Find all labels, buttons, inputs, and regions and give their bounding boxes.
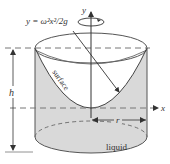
y-axis-label: y xyxy=(81,5,86,15)
radius-label: r xyxy=(116,115,120,125)
x-axis-label: x xyxy=(160,103,165,113)
equation-label: y = ω²x²/2g xyxy=(25,16,68,26)
rotating-cylinder-diagram: x y y = ω²x²/2g surface h xyxy=(0,0,170,164)
liquid-label: liquid xyxy=(106,142,128,152)
height-dimension xyxy=(5,49,33,152)
height-label: h xyxy=(9,87,14,98)
